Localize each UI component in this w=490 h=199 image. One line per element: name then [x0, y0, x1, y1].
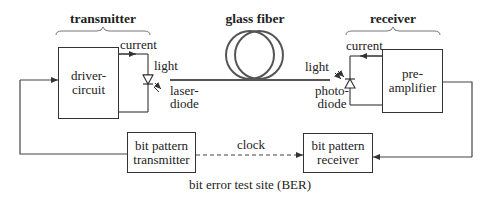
preamp-line2: amplifier	[389, 80, 437, 95]
rx-light-label: light	[305, 60, 329, 73]
driver-line1: driver-	[71, 68, 106, 83]
receiver-brace	[346, 27, 440, 35]
laser-line2: diode	[170, 96, 199, 111]
ber-label: bit error test site (BER)	[189, 178, 311, 191]
laser-diode-icon	[143, 75, 161, 92]
bpt-line1: bit pattern	[135, 138, 188, 153]
tx-light-label: light	[154, 59, 178, 72]
preamp-line1: pre-	[402, 66, 423, 81]
receiver-label: receiver	[370, 12, 416, 25]
laser-diode-label: laser-diode	[170, 84, 199, 110]
transmitter-label: transmitter	[70, 12, 136, 25]
bit-pattern-receiver-block: bit patternreceiver	[303, 133, 373, 173]
tx-current-label: current	[120, 38, 157, 51]
driver-circuit-block: driver-circuit	[58, 47, 119, 119]
bpr-line1: bit pattern	[311, 138, 364, 153]
photo-diode-label: photo-diode	[315, 84, 349, 110]
bpt-line2: transmitter	[133, 152, 189, 167]
bpr-line2: receiver	[317, 152, 359, 167]
pre-amplifier-block: pre-amplifier	[382, 49, 443, 113]
driver-line2: circuit	[72, 82, 105, 97]
photo-line2: diode	[318, 96, 347, 111]
rx-current-label: current	[346, 39, 383, 52]
bit-pattern-transmitter-block: bit patterntransmitter	[127, 132, 196, 173]
clock-label: clock	[237, 138, 265, 151]
glass-fiber-label: glass fiber	[226, 12, 285, 25]
transmitter-brace	[56, 27, 150, 35]
